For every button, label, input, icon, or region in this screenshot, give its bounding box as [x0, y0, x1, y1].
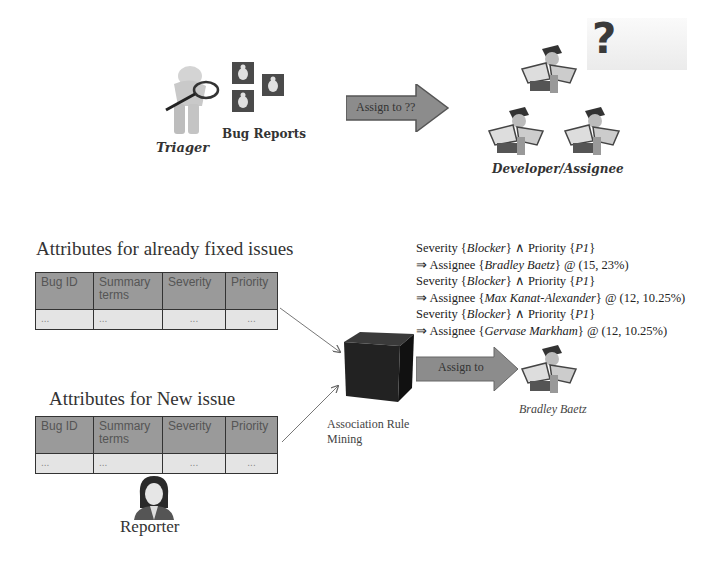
rule-condition: Severity {Blocker} ∧ Priority {P1}	[416, 240, 685, 257]
assign-to-label: Assign to	[438, 360, 484, 375]
rule-result: ⇒ Assignee {Max Kanat-Alexander} @ (12, …	[416, 290, 685, 307]
association-rules-list: Severity {Blocker} ∧ Priority {P1} ⇒ Ass…	[416, 240, 685, 339]
mining-label-line1: Association Rule	[327, 417, 409, 432]
assigned-developer-label: Bradley Baetz	[519, 402, 587, 417]
assign-to-arrow: Assign to	[416, 347, 520, 391]
association-rule-mining-cube	[340, 330, 416, 404]
mining-label-line2: Mining	[327, 432, 409, 447]
rule-result: ⇒ Assignee {Bradley Baetz} @ (15, 23%)	[416, 257, 685, 274]
rule-condition: Severity {Blocker} ∧ Priority {P1}	[416, 273, 685, 290]
rule-condition: Severity {Blocker} ∧ Priority {P1}	[416, 306, 685, 323]
assigned-developer-icon	[520, 345, 580, 395]
rule-result: ⇒ Assignee {Gervase Markham} @ (12, 10.2…	[416, 323, 685, 340]
association-rule-mining-label: Association Rule Mining	[327, 417, 409, 447]
